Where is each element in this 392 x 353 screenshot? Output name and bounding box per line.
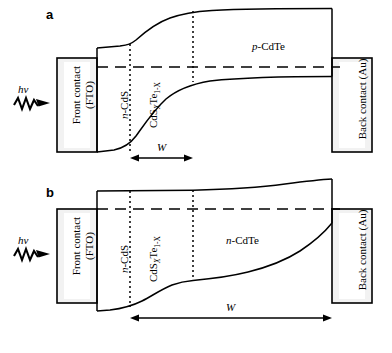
interlayer-label-b: CdSXTe1-X: [147, 216, 163, 302]
band-diagram-figure: a: [0, 0, 392, 353]
window-name-a: -CdS: [118, 91, 130, 114]
window-prefix-a: n: [118, 114, 130, 120]
panel-a-graphics: [0, 0, 392, 176]
front-contact-label-a: Front contact (FTO): [70, 51, 96, 139]
absorber-name-b: -CdTe: [232, 234, 259, 246]
illumination-label-b: hv: [18, 234, 28, 246]
depletion-width-label-b: W: [226, 301, 235, 313]
back-contact-label-b: Back contact (Au): [356, 202, 369, 298]
panel-b: b: [0, 177, 392, 353]
interlayer-base-b: CdS: [147, 263, 159, 282]
front-contact-label-b: Front contact (FTO): [70, 202, 96, 290]
absorber-label-b: n-CdTe: [226, 234, 259, 246]
illumination-label-a: hv: [18, 83, 28, 95]
window-name-b: -CdS: [118, 245, 130, 268]
panel-b-graphics: [0, 177, 392, 353]
interlayer-base-a: CdS: [147, 109, 159, 128]
illumination-arrow-a: [14, 98, 50, 109]
depletion-width-arrow-a: [130, 154, 193, 161]
absorber-label-a: p-CdTe: [252, 40, 285, 52]
interlayer-label-a: CdSXTe1-X: [147, 62, 163, 148]
front-contact-line1-b: Front contact: [70, 217, 82, 275]
conduction-band-curve-b: [97, 179, 332, 191]
front-contact-line2-a: (FTO): [83, 81, 95, 109]
absorber-name-a: -CdTe: [258, 40, 285, 52]
conduction-band-curve-a: [97, 9, 332, 48]
interlayer-sub2-a: 1-X: [153, 82, 162, 94]
depletion-width-arrow-b: [130, 314, 332, 321]
depletion-width-label-a: W: [157, 141, 166, 153]
interlayer-sub2-b: 1-X: [153, 236, 162, 248]
front-contact-line2-b: (FTO): [83, 232, 95, 260]
window-prefix-b: n: [118, 268, 130, 274]
interlayer-mid-a: Te: [147, 94, 159, 105]
interlayer-sub1-a: X: [153, 104, 162, 109]
interlayer-sub1-b: X: [153, 258, 162, 263]
illumination-arrow-b: [14, 249, 50, 260]
window-layer-label-b: n-CdS: [118, 229, 131, 289]
valence-band-curve-b: [97, 223, 332, 311]
panel-a: a: [0, 0, 392, 176]
back-contact-label-a: Back contact (Au): [356, 51, 369, 147]
front-contact-line1-a: Front contact: [70, 66, 82, 124]
valence-band-curve-a: [97, 77, 332, 152]
interlayer-mid-b: Te: [147, 248, 159, 259]
window-layer-label-a: n-CdS: [118, 75, 131, 135]
